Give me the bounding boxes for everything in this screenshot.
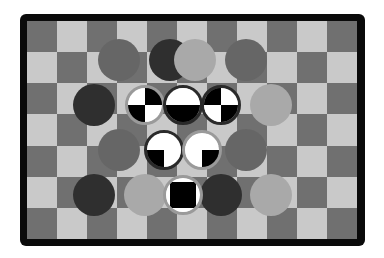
quadrant-piece[interactable] [201,85,241,125]
stone-light[interactable] [174,39,216,81]
piece-quadrant-br [164,150,181,167]
piece-inner-square [170,182,196,208]
stone-dark[interactable] [225,129,267,171]
quadrant-piece[interactable] [144,130,184,170]
piece-quadrant-tl [166,88,183,105]
piece-quadrant-bl [166,105,183,122]
piece-quadrant-tr [202,133,219,150]
piece-quadrant-tl [185,133,202,150]
stone-dark[interactable] [98,129,140,171]
quadrant-piece[interactable] [163,175,203,215]
piece-quadrant-br [145,105,162,122]
pieces-layer [0,0,384,258]
stone-dark[interactable] [225,39,267,81]
piece-quadrant-tr [164,133,181,150]
stone-black[interactable] [73,84,115,126]
stone-black[interactable] [200,174,242,216]
stone-light[interactable] [124,174,166,216]
piece-quadrant-br [183,105,200,122]
piece-quadrant-bl [128,105,145,122]
stone-black[interactable] [73,174,115,216]
piece-quadrant-tl [147,133,164,150]
quadrant-piece[interactable] [182,130,222,170]
piece-quadrant-bl [185,150,202,167]
piece-quadrant-tl [204,88,221,105]
stone-light[interactable] [250,84,292,126]
stone-dark[interactable] [98,39,140,81]
quadrant-piece[interactable] [125,85,165,125]
piece-quadrant-tr [145,88,162,105]
piece-quadrant-bl [147,150,164,167]
piece-quadrant-tr [221,88,238,105]
piece-quadrant-bl [204,105,221,122]
quadrant-piece[interactable] [163,85,203,125]
stone-light[interactable] [250,174,292,216]
piece-quadrant-br [221,105,238,122]
piece-quadrant-tr [183,88,200,105]
piece-quadrant-br [202,150,219,167]
piece-quadrant-tl [128,88,145,105]
